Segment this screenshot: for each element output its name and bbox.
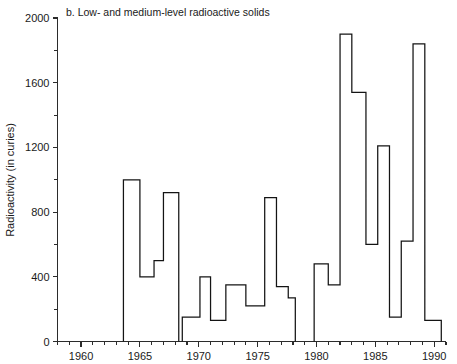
chart-figure: Radioactivity (in curies) b. Low- and me… <box>0 0 457 364</box>
radioactivity-step-chart: Radioactivity (in curies) b. Low- and me… <box>0 0 457 364</box>
y-tick-label: 0 <box>43 336 49 348</box>
panel-title: b. Low- and medium-level radioactive sol… <box>66 6 270 18</box>
x-tick-label: 1970 <box>187 350 211 362</box>
chart-plot-background <box>0 0 457 364</box>
x-tick-label: 1965 <box>128 350 152 362</box>
x-tick-label: 1985 <box>363 350 387 362</box>
y-tick-label: 800 <box>31 206 49 218</box>
x-tick-label: 1980 <box>304 350 328 362</box>
y-tick-label: 1200 <box>25 141 49 153</box>
x-tick-label: 1960 <box>69 350 93 362</box>
y-axis-title-group: Radioactivity (in curies) <box>4 123 16 237</box>
y-axis-title: Radioactivity (in curies) <box>4 123 16 237</box>
x-tick-label: 1990 <box>422 350 446 362</box>
y-tick-label: 2000 <box>25 12 49 24</box>
x-tick-label: 1975 <box>245 350 269 362</box>
y-tick-label: 1600 <box>25 77 49 89</box>
panel-title-group: b. Low- and medium-level radioactive sol… <box>66 6 270 18</box>
y-tick-label: 400 <box>31 271 49 283</box>
